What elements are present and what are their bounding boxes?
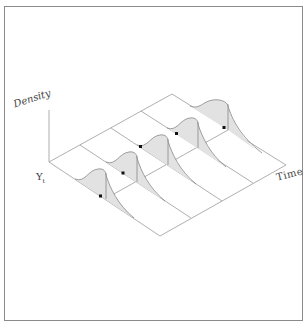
- y-axis-label-main: Y: [36, 171, 43, 182]
- mean-marker: [175, 132, 178, 135]
- density-curve-3: [137, 135, 196, 184]
- mean-marker: [223, 126, 226, 129]
- mean-marker: [99, 195, 102, 198]
- y-axis-label-subscript: t: [43, 177, 45, 184]
- mean-marker: [139, 145, 142, 148]
- mean-marker: [122, 172, 125, 175]
- density-curve-1: [75, 169, 134, 218]
- density-curves: [75, 100, 262, 218]
- density-diagram: [0, 0, 308, 334]
- y-axis-label: Yt: [36, 171, 45, 184]
